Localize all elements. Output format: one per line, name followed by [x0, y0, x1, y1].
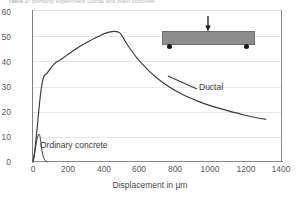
figure-caption: Table 2: Bending experiment Ductal and p…	[8, 0, 288, 6]
x-tick-400: 400	[89, 165, 119, 174]
y-tick-0: 0	[0, 158, 11, 167]
x-tick-600: 600	[124, 165, 154, 174]
y-tick-20: 20	[0, 108, 11, 117]
x-tick-800: 800	[160, 165, 190, 174]
y-tick-40: 40	[0, 58, 11, 67]
y-tick-60: 60	[0, 8, 11, 17]
y-tick-30: 30	[0, 83, 11, 92]
chart-figure: Table 2: Bending experiment Ductal and p…	[0, 0, 300, 201]
x-tick-0: 0	[18, 165, 48, 174]
support-dot-right	[244, 44, 249, 49]
y-tick-10: 10	[0, 133, 11, 142]
x-axis-label: Displacement in µm	[0, 180, 300, 190]
x-tick-1200: 1200	[231, 165, 261, 174]
caption-label: Table 2:	[8, 0, 30, 4]
x-tick-1400: 1400	[266, 165, 296, 174]
x-tick-200: 200	[53, 165, 83, 174]
caption-text: Bending experiment Ductal and plain conc…	[30, 0, 154, 4]
down-arrow-icon	[204, 16, 212, 32]
x-tick-1000: 1000	[195, 165, 225, 174]
support-dot-left	[167, 44, 172, 49]
beam-diagram-inset	[160, 14, 260, 54]
annotation-ordinary-concrete: Ordinary concrete	[40, 140, 108, 150]
y-tick-50: 50	[0, 33, 11, 42]
annotation-ductal: Ductal	[199, 82, 223, 92]
annotation-leader-line	[168, 76, 198, 90]
beam-icon	[162, 31, 255, 45]
